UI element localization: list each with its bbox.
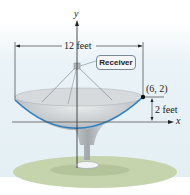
receiver-callout: Receiver <box>96 55 136 70</box>
depth-label: 2 feet <box>155 104 178 115</box>
point-marker <box>141 95 145 99</box>
parabolic-dish-figure <box>0 0 190 195</box>
point-label: (6, 2) <box>146 83 168 94</box>
dish-rim <box>15 88 143 106</box>
width-label: 12 feet <box>64 40 92 51</box>
y-axis-label: y <box>74 8 78 19</box>
x-axis-label: x <box>176 115 180 126</box>
stand-base <box>75 162 99 169</box>
